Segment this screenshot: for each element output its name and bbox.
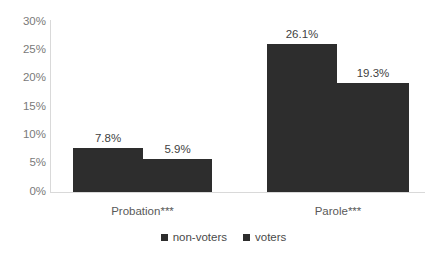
category-label-parole: Parole*** bbox=[267, 205, 409, 217]
y-axis-tick-10: 10% bbox=[4, 129, 46, 141]
legend-swatch-icon bbox=[161, 234, 168, 241]
plot-area: 7.8% 5.9% 26.1% 19.3% bbox=[50, 22, 425, 192]
legend-label-voters: voters bbox=[255, 232, 286, 244]
bar-probation-non-voters[interactable] bbox=[73, 148, 143, 192]
y-axis-tick-15: 15% bbox=[4, 101, 46, 113]
bar-probation-voters[interactable] bbox=[143, 159, 212, 192]
x-axis-line bbox=[50, 192, 425, 193]
chart-legend: non-voters voters bbox=[0, 232, 447, 244]
bar-value-label-parole-voters: 19.3% bbox=[337, 68, 409, 80]
bar-parole-voters[interactable] bbox=[337, 83, 409, 192]
category-label-probation: Probation*** bbox=[73, 205, 212, 217]
y-axis-tick-5: 5% bbox=[4, 157, 46, 169]
legend-swatch-icon bbox=[243, 234, 250, 241]
legend-label-non-voters: non-voters bbox=[173, 232, 227, 244]
bar-value-label-probation-voters: 5.9% bbox=[143, 144, 212, 156]
y-axis-tick-labels: 30% 25% 20% 15% 10% 5% 0% bbox=[0, 0, 46, 258]
y-axis-tick-0: 0% bbox=[4, 186, 46, 198]
bar-parole-non-voters[interactable] bbox=[267, 44, 337, 192]
y-axis-tick-20: 20% bbox=[4, 72, 46, 84]
legend-item-voters[interactable]: voters bbox=[243, 232, 286, 244]
bar-value-label-probation-non-voters: 7.8% bbox=[73, 133, 143, 145]
y-axis-tick-30: 30% bbox=[4, 16, 46, 28]
bar-chart: 30% 25% 20% 15% 10% 5% 0% 7.8% 5.9% 26.1… bbox=[0, 0, 447, 258]
y-axis-tick-25: 25% bbox=[4, 44, 46, 56]
legend-item-non-voters[interactable]: non-voters bbox=[161, 232, 227, 244]
bar-value-label-parole-non-voters: 26.1% bbox=[267, 29, 337, 41]
